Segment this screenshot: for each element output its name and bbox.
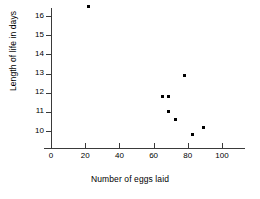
data-point xyxy=(161,95,164,98)
y-tick-mark xyxy=(46,93,51,94)
data-point xyxy=(191,133,194,136)
x-tick-label: 0 xyxy=(36,152,66,160)
data-point xyxy=(87,5,90,8)
x-tick-label: 20 xyxy=(70,152,100,160)
y-tick-label: 10 xyxy=(22,127,44,135)
y-tick-label: 15 xyxy=(22,31,44,39)
x-tick-mark xyxy=(51,143,52,148)
x-tick-label: 60 xyxy=(139,152,169,160)
y-tick-mark xyxy=(46,74,51,75)
y-tick-label: 13 xyxy=(22,69,44,77)
data-point xyxy=(202,126,205,129)
scatter-chart: 16151413121110 020406080100 Length of li… xyxy=(0,0,260,199)
y-tick-mark xyxy=(46,112,51,113)
x-tick-mark xyxy=(188,143,189,148)
data-point xyxy=(167,95,170,98)
data-point xyxy=(183,74,186,77)
x-tick-label: 40 xyxy=(104,152,134,160)
data-point xyxy=(174,118,177,121)
data-point xyxy=(167,110,170,113)
x-tick-mark xyxy=(119,143,120,148)
x-tick-label: 80 xyxy=(173,152,203,160)
x-tick-mark xyxy=(222,143,223,148)
x-axis-label: Number of eggs laid xyxy=(0,174,260,184)
y-tick-label: 14 xyxy=(22,50,44,58)
x-axis-line xyxy=(44,148,245,149)
y-tick-mark xyxy=(46,16,51,17)
y-tick-label: 16 xyxy=(22,12,44,20)
x-tick-label: 100 xyxy=(207,152,237,160)
x-tick-mark xyxy=(85,143,86,148)
y-tick-label: 12 xyxy=(22,88,44,96)
y-tick-mark xyxy=(46,131,51,132)
y-tick-label: 11 xyxy=(22,107,44,115)
y-axis-label: Length of life in days xyxy=(8,0,18,116)
x-tick-mark xyxy=(154,143,155,148)
y-axis-line xyxy=(51,8,52,149)
y-tick-mark xyxy=(46,35,51,36)
y-tick-mark xyxy=(46,54,51,55)
